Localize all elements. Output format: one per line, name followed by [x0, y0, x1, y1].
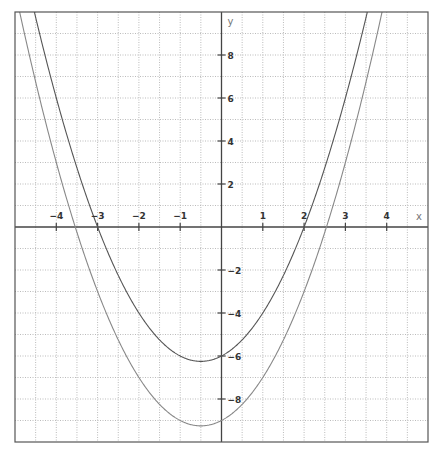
x-tick-label: 3 — [342, 211, 348, 221]
function-plot: −4−3−2−11234−8−6−4−22468xy — [0, 0, 431, 460]
y-tick-label: −6 — [228, 352, 242, 362]
y-tick-label: 8 — [228, 51, 234, 61]
y-axis-label: y — [228, 16, 234, 27]
x-axis-label: x — [416, 211, 422, 222]
y-tick-label: −2 — [228, 266, 242, 276]
y-tick-label: 6 — [228, 94, 234, 104]
x-tick-label: −4 — [49, 211, 63, 221]
y-tick-label: 4 — [228, 137, 234, 147]
x-tick-label: −2 — [132, 211, 146, 221]
x-tick-label: 1 — [260, 211, 266, 221]
x-tick-label: 2 — [301, 211, 307, 221]
x-tick-label: −1 — [173, 211, 187, 221]
y-tick-label: −8 — [228, 395, 242, 405]
y-tick-label: 2 — [228, 180, 234, 190]
x-tick-label: 4 — [384, 211, 390, 221]
x-tick-label: −3 — [91, 211, 105, 221]
y-tick-label: −4 — [228, 309, 242, 319]
